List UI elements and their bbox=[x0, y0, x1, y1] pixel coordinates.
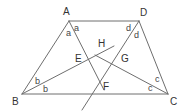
bisector-B bbox=[22, 46, 114, 94]
point-label-F: F bbox=[103, 81, 109, 92]
geometry-diagram: A D B C E H G F a a d d b b c c bbox=[0, 0, 187, 112]
vertex-label-C: C bbox=[170, 96, 177, 107]
point-label-E: E bbox=[75, 53, 82, 64]
angle-label-d2: d bbox=[134, 30, 139, 40]
angle-label-a2: a bbox=[66, 28, 71, 38]
point-label-H: H bbox=[98, 38, 105, 49]
vertex-label-B: B bbox=[12, 96, 19, 107]
vertex-label-A: A bbox=[63, 6, 70, 17]
bisector-D bbox=[82, 21, 139, 110]
angle-label-b2: b bbox=[43, 84, 48, 94]
point-label-G: G bbox=[121, 53, 129, 64]
angle-label-c2: c bbox=[148, 83, 153, 93]
angle-label-a1: a bbox=[74, 23, 79, 33]
angle-label-c1: c bbox=[155, 74, 160, 84]
angle-label-d1: d bbox=[126, 23, 131, 33]
side-DC bbox=[139, 21, 168, 94]
vertex-label-D: D bbox=[140, 7, 147, 18]
angle-label-b1: b bbox=[35, 76, 40, 86]
